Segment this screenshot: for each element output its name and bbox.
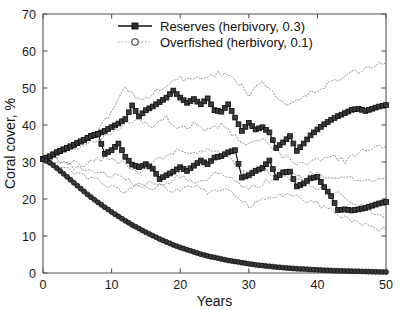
data-point-marker <box>209 102 214 107</box>
axis-frame <box>43 14 386 273</box>
tick-labels-group: 01020304050607001020304050YearsCoral cov… <box>2 8 393 310</box>
y-tick-label: 20 <box>22 193 36 207</box>
data-point-marker <box>126 110 131 115</box>
data-point-marker <box>233 115 238 120</box>
y-tick-label: 60 <box>22 45 36 59</box>
data-point-marker <box>236 122 241 127</box>
y-tick-label: 0 <box>29 267 36 281</box>
data-point-marker <box>288 134 293 139</box>
chart-legend: Reserves (herbivory, 0.3)Overfished (her… <box>118 19 313 50</box>
x-tick-label: 20 <box>173 278 187 292</box>
y-tick-label: 50 <box>22 82 36 96</box>
x-tick-label: 40 <box>310 278 324 292</box>
data-point-marker <box>329 194 334 199</box>
legend-marker-square <box>132 23 138 29</box>
data-point-marker <box>291 141 296 146</box>
data-point-marker <box>384 200 389 205</box>
data-point-marker <box>236 161 241 166</box>
data-point-marker <box>95 131 100 136</box>
highlighted-trajectories <box>41 88 389 274</box>
data-point-marker <box>332 201 337 206</box>
data-point-marker <box>229 109 234 114</box>
data-point-marker <box>384 269 389 274</box>
data-point-marker <box>130 103 135 108</box>
data-point-marker <box>116 141 121 146</box>
x-axis-title: Years <box>197 293 232 309</box>
data-point-marker <box>119 148 124 153</box>
data-point-marker <box>267 130 272 135</box>
axis-group <box>43 14 386 273</box>
x-tick-label: 30 <box>242 278 256 292</box>
data-point-marker <box>270 167 275 172</box>
replicate-trajectories <box>43 62 386 231</box>
data-point-marker <box>318 180 323 185</box>
y-tick-label: 70 <box>22 8 36 22</box>
data-point-marker <box>154 171 159 176</box>
legend-label: Reserves (herbivory, 0.3) <box>160 19 305 34</box>
data-point-marker <box>123 117 128 122</box>
data-point-marker <box>205 96 210 101</box>
replicate-trajectory <box>43 157 386 231</box>
y-tick-label: 10 <box>22 230 36 244</box>
replicate-trajectory <box>43 148 386 181</box>
data-point-marker <box>150 166 155 171</box>
legend-label: Overfished (herbivory, 0.1) <box>160 35 313 50</box>
x-tick-label: 0 <box>40 278 47 292</box>
y-axis-title: Coral cover, % <box>2 98 18 189</box>
replicate-trajectory <box>43 156 386 217</box>
data-point-marker <box>233 148 238 153</box>
x-tick-label: 10 <box>105 278 119 292</box>
data-point-marker <box>288 169 293 174</box>
series-line <box>43 91 386 159</box>
data-point-marker <box>267 158 272 163</box>
data-point-marker <box>315 174 320 179</box>
data-point-marker <box>99 141 104 146</box>
data-point-marker <box>291 177 296 182</box>
data-point-marker <box>226 102 231 107</box>
x-tick-label: 50 <box>379 278 393 292</box>
y-tick-label: 30 <box>22 156 36 170</box>
data-point-marker <box>133 109 138 114</box>
data-point-marker <box>270 138 275 143</box>
data-point-marker <box>384 103 389 108</box>
chart-canvas: 01020304050607001020304050YearsCoral cov… <box>0 0 402 310</box>
legend-marker-circle <box>132 39 138 45</box>
coral-cover-figure: 01020304050607001020304050YearsCoral cov… <box>0 0 402 310</box>
y-tick-label: 40 <box>22 119 36 133</box>
